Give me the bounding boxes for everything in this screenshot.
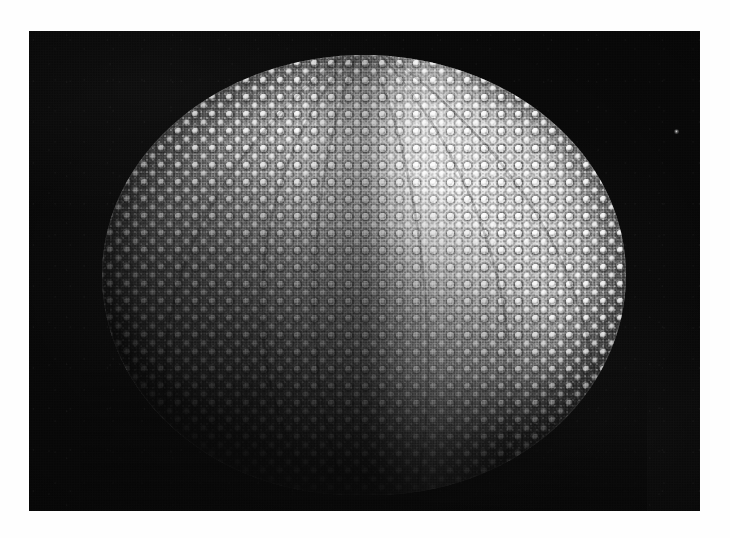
primary-tubercle-field-offset (102, 55, 626, 495)
miliary-granule-field (102, 55, 626, 495)
primary-tubercle-field (102, 55, 626, 495)
page-canvas (0, 0, 730, 538)
photographic-plate (29, 31, 700, 511)
meridional-suture-lines (102, 55, 626, 495)
sea-urchin-specimen (102, 55, 626, 495)
specular-rim-highlight (102, 55, 626, 495)
interambulacral-shade-band (102, 55, 626, 495)
dust-speck (674, 129, 679, 134)
secondary-tubercle-field (102, 55, 626, 495)
tubercle-field-mask (102, 55, 626, 495)
terminator-shadow (102, 55, 626, 495)
urchin-test-body (102, 55, 626, 495)
ambulacral-highlight-band (102, 55, 626, 495)
